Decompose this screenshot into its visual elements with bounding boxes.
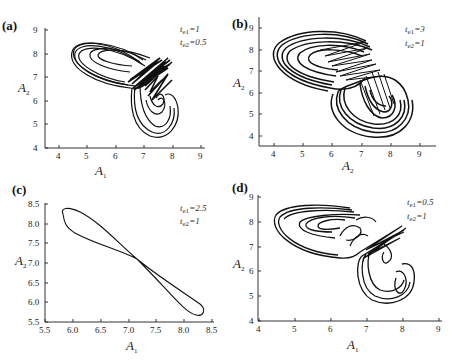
attractor-d-dense-band [340,217,406,263]
svg-text:7.5: 7.5 [150,325,162,335]
x-axis-label-d: A1 [346,337,359,354]
svg-text:8: 8 [388,149,393,159]
svg-text:7: 7 [249,242,254,252]
svg-text:4: 4 [249,131,254,141]
svg-text:7: 7 [359,149,364,159]
svg-text:6: 6 [328,324,333,334]
svg-text:8.5: 8.5 [206,325,218,335]
svg-text:5: 5 [84,151,89,161]
attractor-b [273,31,412,137]
svg-text:5: 5 [249,109,254,119]
svg-text:9: 9 [436,324,441,334]
panel-label-b: (b) [232,16,248,31]
svg-text:8: 8 [249,217,254,227]
panel-label-c: (c) [12,182,26,197]
svg-text:6: 6 [249,266,254,276]
svg-text:6: 6 [329,149,334,159]
svg-text:8: 8 [400,324,405,334]
svg-text:7: 7 [249,66,254,76]
svg-text:9: 9 [198,151,203,161]
y-ticks-d: 9 8 7 6 5 4 [249,192,261,326]
panel-label-d: (d) [232,180,248,195]
panel-d: (d) 9 8 7 6 5 4 4 5 6 7 8 9 A1 A2 te1=0.… [232,180,442,354]
svg-text:8: 8 [33,49,38,59]
y-axis-label-c: A2 [14,253,27,270]
svg-text:5: 5 [292,324,297,334]
svg-text:6: 6 [113,151,118,161]
svg-text:5.5: 5.5 [39,325,51,335]
svg-text:6.0: 6.0 [67,325,79,335]
svg-text:8.5: 8.5 [28,199,40,209]
param-te2-c: te2=1 [180,216,200,228]
svg-text:8: 8 [170,151,175,161]
svg-text:4: 4 [33,143,38,153]
y-axis-label-b: A2 [232,75,245,92]
panel-a: (a) 9 8 7 6 5 4 4 5 6 7 8 9 A1 A2 te1=1 … [2,18,207,180]
y-axis-label-a: A2 [17,80,30,97]
svg-text:8.0: 8.0 [178,325,190,335]
svg-text:4: 4 [56,151,61,161]
x-axis-label-b: A2 [341,158,354,175]
svg-text:9: 9 [249,192,254,202]
param-te2-d: te2=1 [407,211,427,223]
svg-text:7.0: 7.0 [123,325,135,335]
param-te2-b: te2=1 [405,38,425,50]
param-te1-c: te1=2.5 [180,203,207,215]
svg-text:5.5: 5.5 [28,317,40,327]
svg-text:4: 4 [256,324,261,334]
attractor-d [274,205,414,303]
param-te1-d: te1=0.5 [407,197,434,209]
svg-text:7.0: 7.0 [28,258,40,268]
param-te1-b: te1=3 [405,24,425,36]
y-ticks-a: 9 8 7 6 5 4 [33,25,48,153]
svg-text:5: 5 [300,149,305,159]
svg-text:9: 9 [249,23,254,33]
x-ticks-c: 5.5 6.0 6.5 7.0 7.5 8.0 8.5 [39,319,218,335]
svg-text:6.5: 6.5 [28,278,40,288]
svg-text:7: 7 [141,151,146,161]
x-ticks-d: 4 5 6 7 8 9 [256,318,441,334]
svg-text:9: 9 [33,25,38,35]
svg-text:5: 5 [33,119,38,129]
figure-canvas: (a) 9 8 7 6 5 4 4 5 6 7 8 9 A1 A2 te1=1 … [0,0,458,361]
svg-text:4: 4 [271,149,276,159]
svg-text:8: 8 [249,45,254,55]
param-te2-a: te2=0.5 [180,37,207,49]
svg-text:6.5: 6.5 [95,325,107,335]
x-ticks-b: 4 5 6 7 8 9 [271,143,422,159]
x-axis-label-c: A1 [125,338,138,355]
svg-text:6: 6 [33,96,38,106]
panel-b: (b) 9 8 7 6 5 4 4 5 6 7 8 9 A2 A2 te1=3 … [232,16,436,175]
svg-text:7.5: 7.5 [28,238,40,248]
svg-text:7: 7 [364,324,369,334]
svg-text:7: 7 [33,72,38,82]
svg-text:4: 4 [249,316,254,326]
y-ticks-b: 9 8 7 6 5 4 [249,23,262,141]
panel-label-a: (a) [2,18,17,33]
x-axis-label-a: A1 [94,163,107,180]
svg-text:9: 9 [417,149,422,159]
svg-text:8.0: 8.0 [28,219,40,229]
svg-text:5: 5 [249,291,254,301]
svg-text:6: 6 [249,88,254,98]
param-te1-a: te1=1 [180,24,200,36]
svg-text:6.0: 6.0 [28,297,40,307]
panel-c: (c) 8.5 8.0 7.5 7.0 6.5 6.0 5.5 5.5 6.0 … [12,182,218,355]
y-axis-label-d: A2 [232,256,245,273]
x-ticks-a: 4 5 6 7 8 9 [56,145,203,161]
